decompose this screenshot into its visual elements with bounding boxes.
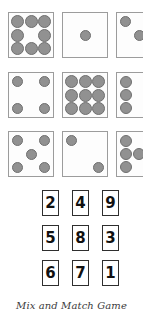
die-pip: [25, 42, 38, 55]
die-pip: [39, 103, 50, 114]
die-pip: [133, 148, 143, 161]
die-seven[interactable]: [116, 131, 143, 177]
number-tile-6[interactable]: 6: [42, 260, 59, 286]
die-pip: [93, 162, 104, 173]
die-pip: [120, 76, 133, 89]
die-pip: [39, 76, 50, 87]
die-pip: [39, 162, 50, 173]
die-pip: [25, 15, 38, 28]
die-pip: [120, 89, 133, 102]
die-pip: [65, 75, 78, 88]
number-tile-9[interactable]: 9: [102, 190, 119, 216]
number-tile-7[interactable]: 7: [72, 260, 89, 286]
die-pip: [92, 102, 105, 115]
die-pip: [12, 103, 23, 114]
die-pip: [12, 135, 23, 146]
die-face: [63, 13, 107, 57]
die-pip: [120, 135, 133, 148]
die-pip: [79, 102, 92, 115]
die-face: [63, 132, 107, 176]
die-face: [117, 73, 143, 117]
dice-grid: [0, 0, 143, 186]
die-five[interactable]: [8, 131, 54, 177]
die-eight[interactable]: [8, 12, 54, 58]
die-face: [9, 13, 53, 57]
number-tile-1[interactable]: 1: [102, 260, 119, 286]
number-tile-3[interactable]: 3: [102, 225, 119, 251]
number-tile-5[interactable]: 5: [42, 225, 59, 251]
caption-label: Mix and Match Game: [0, 300, 143, 311]
die-pip: [12, 162, 23, 173]
die-pip: [11, 42, 24, 55]
die-pip: [26, 149, 37, 160]
die-pip: [11, 29, 24, 42]
number-tile-4[interactable]: 4: [72, 190, 89, 216]
die-pip: [38, 42, 51, 55]
number-tile-2[interactable]: 2: [42, 190, 59, 216]
die-pip: [120, 16, 131, 27]
die-three[interactable]: [116, 12, 143, 58]
die-two[interactable]: [62, 131, 108, 177]
die-four[interactable]: [8, 72, 54, 118]
die-pip: [12, 76, 23, 87]
die-face: [9, 73, 53, 117]
die-face: [9, 132, 53, 176]
die-pip: [120, 102, 133, 115]
die-pip: [92, 89, 105, 102]
die-pip: [80, 30, 91, 41]
die-pip: [120, 161, 133, 174]
die-face: [117, 132, 143, 176]
die-face: [117, 13, 143, 57]
die-pip: [79, 89, 92, 102]
die-pip: [11, 15, 24, 28]
die-pip: [92, 75, 105, 88]
number-tile-8[interactable]: 8: [72, 225, 89, 251]
number-tile-grid: 249583671: [0, 186, 143, 298]
die-pip: [65, 102, 78, 115]
die-pip: [134, 30, 144, 41]
die-pip: [66, 135, 77, 146]
die-six[interactable]: [116, 72, 143, 118]
die-pip: [39, 135, 50, 146]
die-pip: [120, 148, 133, 161]
die-pip: [65, 89, 78, 102]
die-face: [63, 73, 107, 117]
die-nine[interactable]: [62, 72, 108, 118]
die-one[interactable]: [62, 12, 108, 58]
die-pip: [79, 75, 92, 88]
die-pip: [38, 15, 51, 28]
die-pip: [38, 29, 51, 42]
